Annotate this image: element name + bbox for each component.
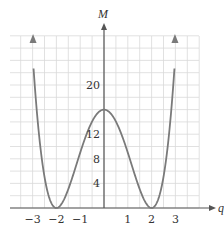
x-tick-labels: −3−2−1123 bbox=[24, 213, 178, 226]
x-axis-label: q bbox=[218, 201, 224, 215]
x-tick-label: 1 bbox=[124, 213, 131, 226]
x-tick-label: −3 bbox=[24, 213, 40, 226]
curve-arrow-left-icon bbox=[30, 34, 37, 43]
y-tick-label: 12 bbox=[86, 128, 100, 141]
y-tick-label: 4 bbox=[93, 177, 100, 190]
x-tick-label: 3 bbox=[172, 213, 179, 226]
y-axis-label: M bbox=[97, 7, 109, 21]
m-axis-arrow-icon bbox=[101, 23, 107, 30]
x-tick-label: −1 bbox=[72, 213, 88, 226]
curve-arrow-right-icon bbox=[171, 34, 178, 43]
x-tick-label: 2 bbox=[148, 213, 155, 226]
y-tick-label: 20 bbox=[86, 79, 100, 92]
chart-canvas: −3−2−1123 481220 q M bbox=[0, 0, 224, 227]
q-axis-arrow-icon bbox=[209, 205, 216, 211]
y-tick-label: 8 bbox=[93, 153, 100, 166]
x-tick-label: −2 bbox=[48, 213, 64, 226]
y-tick-labels: 481220 bbox=[86, 79, 100, 190]
